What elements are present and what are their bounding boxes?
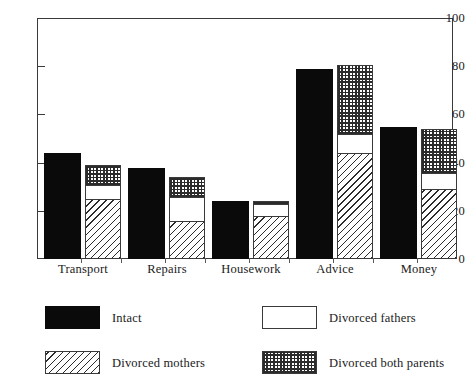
seg-advice-both [337, 65, 373, 135]
legend-swatch-divorced-both-parents [262, 351, 317, 374]
x-label-housework: Housework [209, 262, 293, 277]
legend-label-divorced-both-parents: Divorced both parents [329, 356, 444, 370]
legend-item-divorced-fathers: Divorced fathers [262, 306, 416, 329]
legend-item-divorced-both-parents: Divorced both parents [262, 351, 444, 374]
bar-money-divorced-stack [421, 129, 457, 259]
bar-transport-intact [44, 153, 81, 259]
bar-repairs-intact [128, 168, 165, 259]
bar-advice-intact [296, 69, 333, 259]
seg-advice-fathers [337, 134, 373, 153]
x-label-transport: Transport [41, 262, 125, 277]
seg-housework-mothers [253, 216, 289, 259]
bar-group-repairs [128, 19, 205, 259]
legend-swatch-divorced-fathers [262, 306, 317, 329]
bar-money-intact [380, 127, 417, 259]
bar-repairs-divorced-stack [169, 177, 205, 259]
seg-money-fathers [421, 173, 457, 190]
bar-group-advice [296, 19, 373, 259]
seg-transport-mothers [85, 199, 121, 259]
bar-chart: 100 80 60 40 20 0 [0, 0, 465, 290]
bar-group-transport [44, 19, 121, 259]
legend-item-intact: Intact [45, 306, 142, 329]
x-label-repairs: Repairs [125, 262, 209, 277]
seg-money-both [421, 129, 457, 172]
bar-housework-divorced-stack [253, 201, 289, 259]
seg-transport-both [85, 165, 121, 184]
chart-legend: Intact Divorced fathers Divorced mothers… [0, 296, 465, 387]
legend-swatch-intact [45, 306, 100, 329]
x-label-money: Money [377, 262, 461, 277]
legend-label-intact: Intact [112, 311, 142, 325]
seg-repairs-fathers [169, 197, 205, 221]
legend-label-divorced-mothers: Divorced mothers [112, 356, 205, 370]
seg-housework-fathers [253, 204, 289, 216]
bars-container [38, 19, 452, 259]
bar-advice-divorced-stack [337, 65, 373, 259]
bar-housework-intact [212, 201, 249, 259]
legend-swatch-divorced-mothers [45, 351, 100, 374]
seg-money-mothers [421, 189, 457, 259]
bar-group-money [380, 19, 457, 259]
x-axis-labels: Transport Repairs Housework Advice Money [37, 262, 453, 284]
legend-item-divorced-mothers: Divorced mothers [45, 351, 205, 374]
bar-transport-divorced-stack [85, 165, 121, 259]
legend-label-divorced-fathers: Divorced fathers [329, 311, 416, 325]
bar-group-housework [212, 19, 289, 259]
seg-advice-mothers [337, 153, 373, 259]
seg-transport-fathers [85, 185, 121, 199]
seg-repairs-both [169, 177, 205, 196]
x-label-advice: Advice [293, 262, 377, 277]
seg-repairs-mothers [169, 221, 205, 259]
